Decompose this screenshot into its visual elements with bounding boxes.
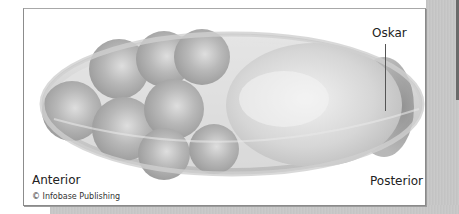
credit-text: © Infobase Publishing <box>32 192 120 201</box>
background-strip-right <box>426 0 459 214</box>
background-strip-bottom <box>50 205 459 214</box>
oskar-label: Oskar <box>372 26 407 40</box>
posterior-label: Posterior <box>370 174 423 188</box>
anterior-label: Anterior <box>32 173 80 187</box>
egg-chamber-illustration <box>24 9 425 205</box>
oskar-pointer-line <box>385 44 386 111</box>
figure-panel: Oskar Anterior © Infobase Publishing Pos… <box>23 8 426 206</box>
